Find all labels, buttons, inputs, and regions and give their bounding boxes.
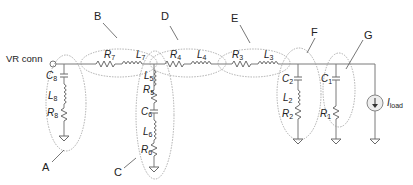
label-l8: L8 [48,90,58,102]
label-l6: L6 [143,126,153,138]
leader-d [170,26,178,40]
group-label-c: C [114,166,122,178]
group-label-g: G [364,29,373,41]
label-r7: R7 [104,49,115,61]
label-l2: L2 [283,92,293,104]
label-r5: R5 [143,84,154,96]
resistor-r4 [165,61,184,67]
label-l7: L7 [136,49,146,61]
ground-icon [149,167,159,172]
label-c2: C2 [282,73,293,85]
group-label-d: D [161,10,169,22]
resistor-r2 [295,106,301,119]
group-d-outline [150,49,226,77]
resistor-r8 [61,108,67,121]
inductor-l2 [298,90,300,106]
group-label-f: F [311,26,318,38]
group-label-e: E [231,12,238,24]
leader-a [52,150,64,162]
label-iload: Iload [387,97,403,109]
ground-icon [331,139,341,144]
inductor-l7 [122,62,142,65]
group-label-a: A [42,161,50,173]
group-label-b: B [94,10,101,22]
label-c6: C6 [141,106,152,118]
vr-conn-label: VR conn [6,53,42,64]
label-l5: L5 [144,70,154,82]
label-r1: R1 [320,108,331,120]
circuit-diagram: B D E F G A C VR conn R7 L7 R4 L4 R3 L3 … [0,0,413,185]
label-r4: R4 [170,49,181,61]
resistor-r1 [333,106,339,119]
inductor-l4 [191,62,211,65]
inductor-l6 [154,120,156,140]
label-r8: R8 [47,107,58,119]
label-c1: C1 [321,73,332,85]
leader-e [240,25,250,43]
ground-icon [59,136,69,141]
leader-c [124,158,136,168]
leader-f [307,38,315,53]
label-r2: R2 [282,108,293,120]
label-r6: R6 [141,144,152,156]
leader-g [346,40,363,69]
ground-icon [370,139,380,144]
resistor-r3 [232,61,251,67]
label-c8: C8 [46,70,57,82]
leader-b [103,23,117,38]
inductor-l3 [258,62,278,65]
label-r3: R3 [232,49,243,61]
inductor-l8 [64,84,66,104]
resistor-r7 [96,61,115,67]
